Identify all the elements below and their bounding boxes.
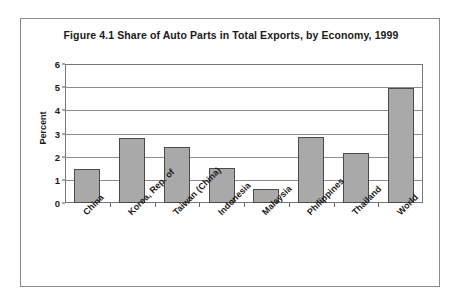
y-tick-label: 2 [55, 151, 60, 162]
y-tick-label: 5 [55, 82, 60, 93]
figure-frame: Figure 4.1 Share of Auto Parts in Total … [20, 18, 440, 287]
x-tick-mark [155, 203, 156, 207]
chart-title: Figure 4.1 Share of Auto Parts in Total … [21, 29, 441, 41]
bar-slot [65, 64, 110, 203]
x-tick-mark [289, 203, 290, 207]
bar-slot [289, 64, 334, 203]
y-tick-label: 6 [55, 59, 60, 70]
y-tick-label: 3 [55, 128, 60, 139]
y-axis-title: Percent [38, 88, 48, 168]
x-tick-mark [199, 203, 200, 207]
y-tick-label: 0 [55, 198, 60, 209]
y-tick-label: 1 [55, 174, 60, 185]
bar[interactable] [388, 88, 414, 203]
plot-area: 0123456 ChinaKorea, Rep. ofTaiwan (China… [65, 64, 423, 203]
bar-slot [378, 64, 423, 203]
bar-slot [244, 64, 289, 203]
bar-slot [110, 64, 155, 203]
x-tick-mark [378, 203, 379, 207]
x-tick-mark [334, 203, 335, 207]
y-tick-label: 4 [55, 105, 60, 116]
x-tick-mark [110, 203, 111, 207]
x-tick-mark [244, 203, 245, 207]
